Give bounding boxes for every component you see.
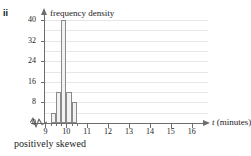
y-axis-tick-label: 40 [20,16,36,24]
x-axis-minor-tick [72,124,73,127]
x-axis-title-unit: (minutes) [217,117,251,127]
y-axis-tick-label: 0 [20,119,36,127]
x-axis-minor-tick [56,124,57,127]
x-axis-tick-label: 11 [77,127,97,136]
y-axis-tick [41,41,45,42]
gridline [45,61,208,62]
y-axis-tick-label: 16 [20,78,36,86]
x-axis-tick-label: 16 [182,127,202,136]
y-axis-tick [41,82,45,83]
x-axis-minor-tick [61,124,62,127]
y-axis-arrow-icon [41,8,47,15]
x-axis-title: t (minutes) [212,117,251,127]
gridline [45,51,208,52]
gridline [45,82,208,83]
y-axis-title: frequency density [50,8,114,18]
y-axis-tick [41,123,45,124]
answer-caption: positively skewed [14,138,86,150]
y-axis-tick [41,61,45,62]
gridline [45,20,208,21]
gridline [45,72,208,73]
y-axis-tick-label: 24 [20,57,36,65]
x-axis-tick-label: 13 [119,127,139,136]
x-axis-arrow-icon [203,120,210,126]
x-axis-tick-label: 12 [98,127,118,136]
x-axis-minor-tick [77,124,78,127]
gridline [45,30,208,31]
y-axis-tick-label: 8 [20,98,36,106]
x-axis-tick-label: 10 [56,127,76,136]
x-axis-tick-label: 9 [35,127,55,136]
y-axis-tick [41,20,45,21]
y-axis-line [44,14,45,124]
x-axis-tick-label: 15 [161,127,181,136]
x-axis-title-variable: t [212,117,215,127]
x-axis-minor-tick [51,124,52,127]
part-label: ii [3,9,8,18]
histogram-bar [72,102,77,123]
y-axis-tick [41,102,45,103]
y-axis-tick-label: 32 [20,37,36,45]
histogram-figure: ii 910111213141516 0816243240 frequency … [0,0,251,156]
gridline [45,41,208,42]
x-axis-tick-label: 14 [140,127,160,136]
